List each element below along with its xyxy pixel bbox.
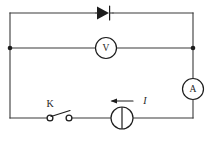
ammeter-symbol: A xyxy=(183,79,204,100)
current-direction-indicator: I xyxy=(111,95,148,106)
current-label: I xyxy=(142,95,147,106)
diode-symbol xyxy=(96,6,113,20)
voltmeter-symbol: V xyxy=(96,38,117,59)
source-symbol xyxy=(111,107,133,129)
left-junction-dot xyxy=(8,46,13,51)
ammeter-label: A xyxy=(190,84,197,94)
right-junction-dot xyxy=(191,46,196,51)
switch-right-terminal-icon xyxy=(66,115,72,121)
switch-symbol[interactable]: K xyxy=(46,98,72,121)
current-arrow-head-icon xyxy=(111,99,118,104)
circuit-schematic-canvas: V A K I xyxy=(0,0,215,143)
outer-loop-wires xyxy=(10,13,193,118)
switch-label: K xyxy=(46,98,54,109)
circuit-diagram: V A K I xyxy=(0,0,215,143)
voltmeter-label: V xyxy=(103,43,110,53)
diode-triangle-icon xyxy=(97,7,109,20)
